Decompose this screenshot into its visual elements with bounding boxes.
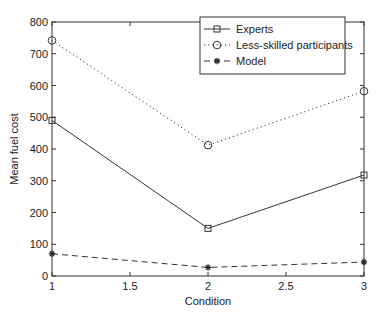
y-axis-label: Mean fuel cost <box>8 113 20 185</box>
y-tick-label: 100 <box>30 238 48 250</box>
y-tick-label: 500 <box>30 111 48 123</box>
line-chart: 010020030040050060070080011.522.53 Exper… <box>0 0 386 316</box>
star-marker <box>205 264 211 270</box>
y-tick-label: 0 <box>42 270 48 282</box>
y-tick-label: 200 <box>30 207 48 219</box>
legend: ExpertsLess-skilled participantsModel <box>200 17 353 74</box>
x-tick-label: 2.5 <box>278 280 293 292</box>
y-tick-label: 700 <box>30 48 48 60</box>
x-tick-label: 3 <box>361 280 367 292</box>
legend-label: Less-skilled participants <box>236 39 353 51</box>
legend-label: Experts <box>236 23 274 35</box>
y-tick-label: 300 <box>30 175 48 187</box>
y-tick-label: 800 <box>30 16 48 28</box>
legend-label: Model <box>236 55 266 67</box>
y-tick-label: 400 <box>30 143 48 155</box>
y-tick-label: 600 <box>30 80 48 92</box>
x-tick-label: 2 <box>205 280 211 292</box>
x-tick-label: 1.5 <box>122 280 137 292</box>
star-marker <box>361 259 367 265</box>
x-tick-label: 1 <box>49 280 55 292</box>
star-marker <box>49 251 55 257</box>
star-marker <box>214 58 220 64</box>
series-model <box>49 251 367 271</box>
x-axis-label: Condition <box>185 295 231 307</box>
circle-marker <box>204 141 212 149</box>
series-experts <box>49 117 367 231</box>
